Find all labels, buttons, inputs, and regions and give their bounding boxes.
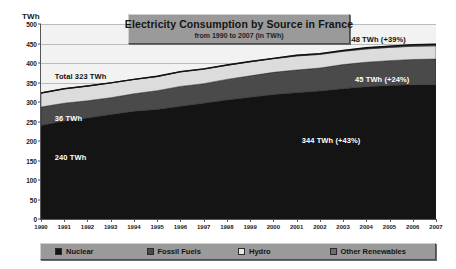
- annotation-hydro-end: 45 TWh (+24%): [355, 75, 409, 84]
- x-tick-mark: [273, 219, 274, 222]
- legend-swatch-icon: [147, 248, 154, 255]
- x-tick-label: 1993: [104, 224, 117, 230]
- stacked-area-series: [41, 24, 436, 219]
- legend-item-other-renewables[interactable]: Other Renewables: [330, 247, 422, 256]
- x-tick-label: 1995: [150, 224, 163, 230]
- x-tick-label: 1997: [197, 224, 210, 230]
- legend-label: Hydro: [249, 247, 271, 256]
- y-tick-label: 200: [26, 138, 37, 145]
- x-tick-label: 2004: [360, 224, 373, 230]
- annotation-hydro-start: 36 TWh: [55, 114, 82, 123]
- x-tick-mark: [204, 219, 205, 222]
- x-tick-label: 1990: [34, 224, 47, 230]
- x-tick-mark: [390, 219, 391, 222]
- y-tick-label: 150: [26, 157, 37, 164]
- x-tick-label: 2006: [406, 224, 419, 230]
- legend-item-hydro[interactable]: Hydro: [238, 247, 330, 256]
- y-tick-label: 450: [26, 40, 37, 47]
- x-tick-mark: [413, 219, 414, 222]
- y-tick-label: 50: [30, 196, 37, 203]
- y-tick-label: 0: [33, 216, 37, 223]
- x-tick-label: 2007: [429, 224, 442, 230]
- x-tick-label: 1999: [243, 224, 256, 230]
- x-tick-mark: [180, 219, 181, 222]
- x-tick-label: 1996: [174, 224, 187, 230]
- chart-subtitle: from 1990 to 2007 (in TWh): [194, 32, 283, 39]
- x-tick-label: 2002: [313, 224, 326, 230]
- y-tick-label: 350: [26, 79, 37, 86]
- x-tick-mark: [134, 219, 135, 222]
- y-tick-label: 400: [26, 60, 37, 67]
- x-tick-mark: [64, 219, 65, 222]
- x-tick-mark: [41, 219, 42, 222]
- x-tick-label: 2000: [267, 224, 280, 230]
- y-tick-label: 250: [26, 118, 37, 125]
- legend-item-nuclear[interactable]: Nuclear: [55, 247, 147, 256]
- y-tick-label: 500: [26, 21, 37, 28]
- legend-label: Other Renewables: [341, 247, 406, 256]
- x-tick-mark: [111, 219, 112, 222]
- x-tick-mark: [436, 219, 437, 222]
- plot-area: 050100150200250300350400450500 199019911…: [40, 24, 436, 220]
- x-tick-mark: [87, 219, 88, 222]
- x-tick-mark: [227, 219, 228, 222]
- legend-swatch-icon: [330, 248, 337, 255]
- x-tick-mark: [250, 219, 251, 222]
- legend-item-fossil-fuels[interactable]: Fossil Fuels: [147, 247, 239, 256]
- chart-legend: NuclearFossil FuelsHydroOther Renewables: [40, 243, 436, 260]
- annotation-nuclear-end: 344 TWh (+43%): [302, 136, 361, 145]
- legend-label: Nuclear: [66, 247, 94, 256]
- x-tick-label: 2003: [336, 224, 349, 230]
- x-tick-mark: [320, 219, 321, 222]
- x-tick-mark: [297, 219, 298, 222]
- x-tick-mark: [366, 219, 367, 222]
- y-tick-label: 100: [26, 177, 37, 184]
- x-tick-label: 1991: [58, 224, 71, 230]
- x-tick-mark: [343, 219, 344, 222]
- x-tick-label: 1992: [81, 224, 94, 230]
- x-tick-label: 1998: [220, 224, 233, 230]
- x-tick-mark: [157, 219, 158, 222]
- annotation-nuclear-start: 240 TWh: [55, 153, 87, 162]
- y-tick-label: 300: [26, 99, 37, 106]
- chart-title: Electricity Consumption by Source in Fra…: [125, 19, 353, 30]
- legend-label: Fossil Fuels: [158, 247, 201, 256]
- chart-title-plaque: Electricity Consumption by Source in Fra…: [128, 14, 350, 44]
- annotation-total-start: Total 323 TWh: [55, 72, 107, 81]
- x-tick-label: 1994: [127, 224, 140, 230]
- plot-clip: [41, 24, 436, 219]
- annotation-total-end: 448 TWh (+39%): [347, 35, 406, 44]
- chart-container: TWh 050100150200250300350400450500 19901…: [0, 0, 456, 269]
- x-tick-label: 2005: [383, 224, 396, 230]
- x-tick-label: 2001: [290, 224, 303, 230]
- legend-swatch-icon: [238, 248, 245, 255]
- legend-swatch-icon: [55, 248, 62, 255]
